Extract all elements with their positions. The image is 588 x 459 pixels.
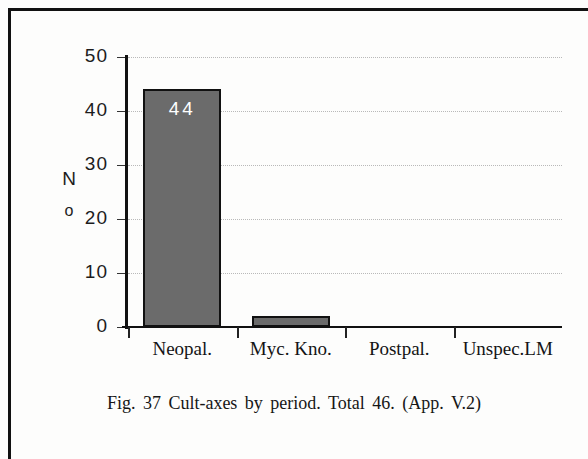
page-frame-left-rule	[8, 8, 11, 459]
y-axis-tick-label: 50	[62, 45, 108, 67]
y-axis-tick	[117, 273, 125, 274]
y-axis-line	[125, 55, 128, 329]
figure-caption: Fig. 37 Cult-axes by period. Total 46. (…	[0, 393, 588, 414]
x-axis-tick	[237, 327, 239, 338]
x-axis-tick-label: Unspec.LM	[454, 338, 563, 360]
bar-value-label: 44	[143, 98, 221, 120]
y-axis-tick-label: 10	[62, 261, 108, 283]
x-axis-tick	[345, 327, 347, 338]
figure-page: 01020304050 44 Neopal.Myc. Kno.Postpal.U…	[0, 0, 588, 459]
y-axis-tick	[117, 111, 125, 112]
gridline	[128, 57, 562, 58]
x-axis-tick	[128, 327, 130, 338]
x-axis-tick-label: Postpal.	[345, 338, 454, 360]
x-axis-tick-label: Neopal.	[128, 338, 237, 360]
y-axis-title-line1: N	[58, 168, 80, 190]
y-axis-tick	[117, 57, 125, 58]
page-frame-top-rule	[8, 8, 588, 11]
y-axis-tick-label: 0	[62, 315, 108, 337]
x-axis-tick-label: Myc. Kno.	[237, 338, 346, 360]
y-axis-tick-label: 40	[62, 99, 108, 121]
bar	[252, 316, 330, 327]
y-axis-title-line2: o	[58, 202, 80, 220]
y-axis-tick	[117, 219, 125, 220]
y-axis-tick	[117, 165, 125, 166]
x-axis-tick	[454, 327, 456, 338]
bar	[143, 89, 221, 327]
